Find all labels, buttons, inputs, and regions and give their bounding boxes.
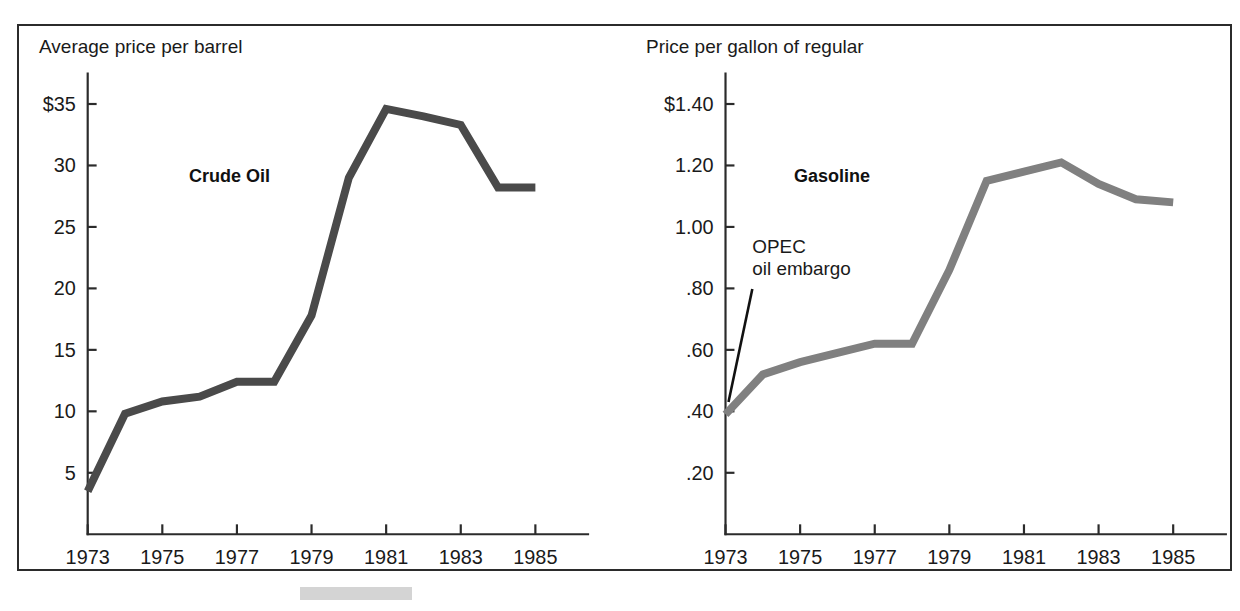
y-axis-tick-label: .40 xyxy=(686,400,714,422)
x-axis-tick-label: 1981 xyxy=(1002,546,1046,568)
y-axis-tick-label: 30 xyxy=(54,154,76,176)
y-axis-tick-label: 1.20 xyxy=(675,154,714,176)
x-axis-tick-label: 1981 xyxy=(364,546,408,568)
x-axis-tick-label: 1985 xyxy=(1151,546,1195,568)
y-axis-tick-label: 15 xyxy=(54,339,76,361)
x-axis-tick-label: 1983 xyxy=(1076,546,1120,568)
x-axis-tick-label: 1983 xyxy=(439,546,483,568)
y-axis-tick-label: 5 xyxy=(65,462,76,484)
x-axis-tick-label: 1977 xyxy=(853,546,897,568)
y-axis-tick-label: 10 xyxy=(54,400,76,422)
gasoline-plot-area: $1.401.201.00.80.60.40.20197319751977197… xyxy=(629,26,1234,569)
data-series-line-gasoline xyxy=(726,162,1174,414)
y-axis-tick-label: .20 xyxy=(686,462,714,484)
y-axis-tick-label: $1.40 xyxy=(664,93,714,115)
crude-oil-plot-area: $353025201510519731975197719791981198319… xyxy=(19,26,619,569)
x-axis-tick-label: 1977 xyxy=(215,546,259,568)
data-series-line-crude-oil xyxy=(88,109,536,491)
chart-frame-border: Average price per barrel Crude Oil $3530… xyxy=(17,24,1232,571)
chart-panel-gasoline: Price per gallon of regular Gasoline $1.… xyxy=(629,26,1234,569)
x-axis-tick-label: 1975 xyxy=(778,546,822,568)
x-axis-tick-label: 1973 xyxy=(66,546,110,568)
chart-panel-crude-oil: Average price per barrel Crude Oil $3530… xyxy=(19,26,619,569)
figure-container: Average price per barrel Crude Oil $3530… xyxy=(0,0,1240,611)
y-axis-tick-label: .60 xyxy=(686,339,714,361)
x-axis-tick-label: 1979 xyxy=(289,546,333,568)
x-axis-tick-label: 1975 xyxy=(140,546,184,568)
annotation-label-line-2: oil embargo xyxy=(752,258,851,279)
y-axis-tick-label: 25 xyxy=(54,216,76,238)
annotation-label-line-1: OPEC xyxy=(752,236,805,257)
y-axis-tick-label: .80 xyxy=(686,277,714,299)
x-axis-tick-label: 1985 xyxy=(513,546,557,568)
x-axis-tick-label: 1979 xyxy=(927,546,971,568)
y-axis-tick-label: 1.00 xyxy=(675,216,714,238)
y-axis-tick-label: $35 xyxy=(43,93,76,115)
y-axis-tick-label: 20 xyxy=(54,277,76,299)
scan-artifact-bar xyxy=(300,587,412,600)
x-axis-tick-label: 1973 xyxy=(703,546,747,568)
